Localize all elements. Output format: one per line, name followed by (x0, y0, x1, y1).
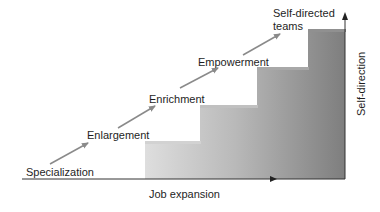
y-axis-arrowhead-icon (342, 12, 348, 20)
y-axis-label: Self-direction (355, 52, 367, 116)
arrow-enrichment-to-empowerment (180, 68, 218, 88)
step-lip-2 (200, 105, 258, 108)
step-lip-4 (308, 29, 346, 32)
arrow-empowerment-to-teams (243, 34, 280, 55)
staircase-diagram (0, 0, 380, 212)
stage-label-teams: teams (273, 20, 303, 32)
x-axis-label: Job expansion (149, 188, 220, 200)
arrow-enlargement-to-enrichment (118, 106, 155, 128)
step-lip-1 (145, 141, 201, 144)
stage-label-specialization: Specialization (26, 166, 94, 178)
stage-label-self-directed: Self-directed (273, 7, 335, 19)
stage-label-empowerment: Empowerment (198, 56, 269, 68)
stage-label-enrichment: Enrichment (149, 93, 205, 105)
stage-label-enlargement: Enlargement (87, 129, 149, 141)
arrow-specialization-to-enlargement (50, 143, 88, 164)
